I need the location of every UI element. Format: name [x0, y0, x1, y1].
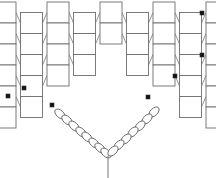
lattice-cell — [21, 34, 43, 55]
lattice-cell — [180, 13, 202, 34]
lattice-cell — [0, 44, 16, 65]
lattice-cell — [206, 86, 216, 107]
lattice-cell — [180, 55, 202, 76]
lattice-cell — [21, 55, 43, 76]
lattice-cell — [206, 107, 216, 128]
lattice-cell — [127, 13, 149, 34]
lattice-cell — [100, 23, 122, 44]
lattice-cell — [100, 2, 122, 23]
lattice-cell — [0, 23, 16, 44]
lattice-cell — [0, 107, 16, 128]
dot-marker — [22, 86, 26, 90]
lattice-cell — [180, 76, 202, 97]
dot-marker — [200, 11, 204, 15]
lattice-cell — [153, 44, 175, 65]
lattice-cell — [0, 65, 16, 86]
lattice-cell — [74, 55, 96, 76]
lattice-cell — [74, 34, 96, 55]
lattice-cell — [153, 65, 175, 86]
lattice-cell — [180, 97, 202, 118]
lattice-cell — [47, 44, 69, 65]
lattice-cell — [47, 23, 69, 44]
lattice-cell — [74, 13, 96, 34]
lattice-cell — [21, 97, 43, 118]
lattice-cell — [0, 2, 16, 23]
diagram-root — [0, 0, 216, 178]
lattice-cell — [21, 13, 43, 34]
dot-marker — [200, 53, 204, 57]
lattice-cell — [206, 2, 216, 23]
dot-marker — [173, 74, 177, 78]
dot-marker — [6, 94, 10, 98]
lattice-cell — [47, 65, 69, 86]
lattice-cell — [206, 44, 216, 65]
lattice-cell — [206, 65, 216, 86]
lattice-cell — [127, 34, 149, 55]
lattice-cell — [180, 34, 202, 55]
dot-marker — [50, 103, 54, 107]
lattice-cell — [47, 2, 69, 23]
lattice-cell — [153, 2, 175, 23]
lattice-cell — [153, 23, 175, 44]
lattice-cell — [206, 23, 216, 44]
lattice-cell — [127, 55, 149, 76]
lattice-chain-diagram — [0, 0, 216, 178]
dot-marker — [146, 95, 150, 99]
